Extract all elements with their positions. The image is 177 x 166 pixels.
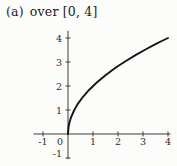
y-tick-label: 2 bbox=[56, 81, 62, 92]
x-tick-label: 4 bbox=[165, 136, 171, 147]
x-tick-label: 2 bbox=[115, 136, 121, 147]
figure: (a)over [0, 4] -101234-11234 bbox=[0, 0, 177, 166]
y-tick-label: 4 bbox=[56, 33, 62, 44]
y-tick-label: -1 bbox=[53, 148, 62, 159]
x-tick-label: 0 bbox=[57, 136, 63, 147]
curve bbox=[68, 38, 168, 134]
y-tick-label: 3 bbox=[56, 57, 62, 68]
x-tick-label: 3 bbox=[140, 136, 146, 147]
plot-svg: -101234-11234 bbox=[0, 0, 177, 166]
y-tick-label: 1 bbox=[56, 105, 62, 116]
x-tick-label: -1 bbox=[38, 136, 47, 147]
x-tick-label: 1 bbox=[90, 136, 96, 147]
